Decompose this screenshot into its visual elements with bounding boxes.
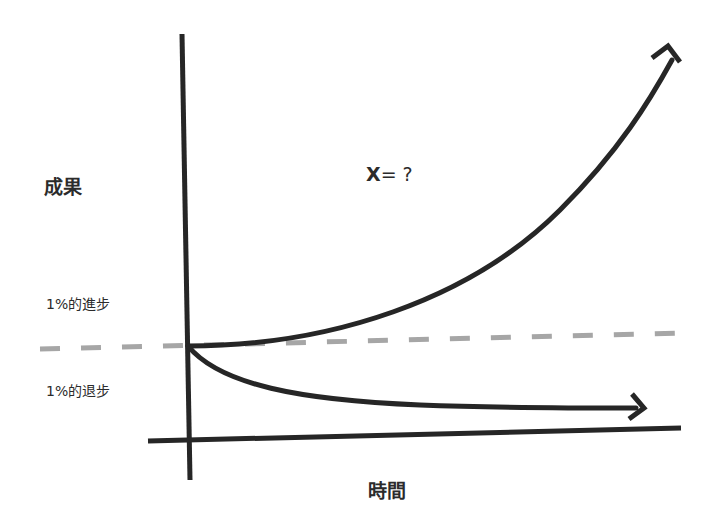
question-rest: = ? [381, 163, 413, 185]
decline-label: 1%的退步 [46, 380, 110, 400]
growth-curve [188, 60, 672, 346]
diagram-canvas [0, 0, 720, 522]
y-axis [182, 34, 190, 480]
baseline-dashed-line [40, 333, 684, 349]
y-axis-label: 成果 [44, 172, 82, 199]
growth-arrow-icon [652, 46, 680, 62]
decay-curve [188, 346, 636, 408]
x-axis [148, 428, 681, 441]
question-label: X= ? [366, 163, 413, 185]
question-variable: X [366, 163, 381, 185]
improve-label: 1%的進步 [46, 293, 110, 313]
x-axis-label: 時間 [368, 476, 406, 503]
